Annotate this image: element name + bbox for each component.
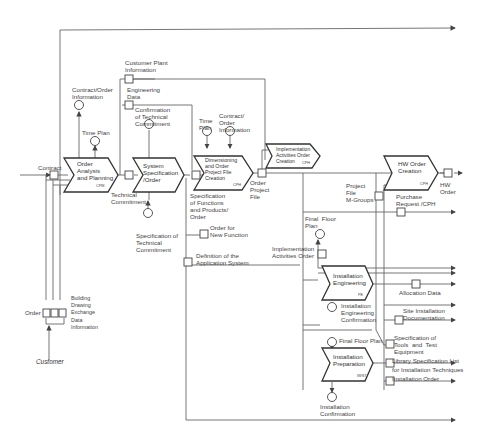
label-impl-activities-order: Implementation Activities Order — [272, 245, 314, 259]
label-contract-order-info: Contract/Order Information — [72, 86, 113, 100]
function-install-prep-label: Installation Preparation — [333, 353, 365, 367]
label-customer-plant-info: Customer Plant Information — [125, 59, 168, 73]
label-install-eng-confirmation: Installation Engineering Confirmation — [341, 302, 376, 323]
label-confirmation-technical: Confirmation of Technical Commitment — [135, 106, 170, 127]
org-tag: CPM — [96, 184, 104, 188]
label-building-drawing: Building Drawing Exchange Data Informati… — [71, 295, 98, 331]
label-site-installation-doc: Site Installation Documentation — [403, 307, 445, 321]
label-order-new-function: Order for New Function — [210, 224, 248, 238]
org-tag: PE — [358, 293, 363, 297]
label-installation-order: Installation Order — [392, 375, 439, 382]
label-final-floor-plan-2: Final Floor Plan — [339, 337, 382, 344]
external-customer: Customer — [36, 358, 64, 365]
label-final-floor-plan: Final Floor Plan — [305, 215, 336, 229]
label-allocation-data: Allocation Data — [399, 289, 441, 296]
function-install-eng-label: Installation Engineering — [333, 272, 366, 286]
label-contract: Contract — [38, 164, 61, 171]
label-purchase-request: Purchase Request /CPH — [396, 193, 436, 207]
function-system-spec-label: System Specification /Order — [143, 162, 178, 183]
label-contract-order-info-2: Contract/ Order Information — [219, 112, 250, 133]
label-spec-tools: Specification of Tools and Test Equipmen… — [394, 334, 437, 355]
org-tag: CPH — [233, 183, 241, 187]
label-time-plan: Time Plan — [82, 129, 110, 136]
label-order-project-file: Order Project File — [250, 179, 269, 200]
label-engineering-data: Engineering Data — [127, 86, 160, 100]
org-tag: CPH — [302, 161, 310, 165]
function-order-analysis-label: Order Analysis and Planning — [77, 160, 113, 181]
label-order: Order — [25, 309, 41, 316]
org-tag: IWST — [357, 374, 367, 378]
function-dimensioning-label: Dimensioning and Order Project File Crea… — [205, 157, 237, 181]
label-install-techniques: for Installation Techniques — [392, 366, 463, 373]
label-library-spec: Library Specification List — [392, 357, 459, 364]
label-hw-order: HW Order — [440, 181, 456, 195]
label-technical-commitment: Technical Commitment — [111, 191, 146, 205]
label-installation-confirmation: Installation Confirmation — [320, 403, 355, 417]
label-spec-tech-commitment: Specification of Technical Commitment — [136, 232, 178, 253]
label-project-file-mgroups: Project File M-Groups — [346, 182, 374, 203]
function-hw-order-label: HW Order Creation — [398, 160, 426, 174]
label-time-plan-2: Time Plan — [199, 117, 213, 131]
label-spec-functions: Specification of Functions and Products/… — [190, 192, 228, 220]
label-definition-app: Definition of the Application System — [196, 252, 249, 266]
org-tag: CPH — [420, 182, 428, 186]
